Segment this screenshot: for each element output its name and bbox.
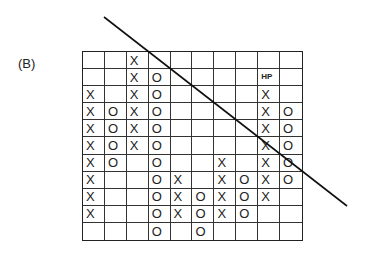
trendline: [0, 0, 365, 254]
